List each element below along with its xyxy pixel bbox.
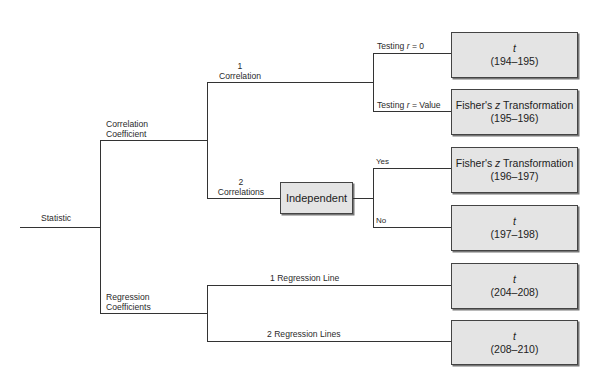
- outcome-box-t-197: t (197–198): [451, 205, 578, 251]
- yes-line: [373, 168, 451, 169]
- regression-vertical: [207, 285, 208, 342]
- regression-coefficients-label: Regression Coefficients: [106, 293, 151, 312]
- one-correlation-line: [207, 82, 374, 83]
- outcome-box-fisher-196: Fisher's z Transformation (196–197): [451, 147, 578, 193]
- testing-zero-line: [373, 53, 451, 54]
- no-label: No: [376, 216, 386, 226]
- outcome-box-t-208: t (208–210): [451, 320, 578, 365]
- correlation-coefficient-label: Correlation Coefficient: [106, 120, 148, 139]
- correlation-vertical: [207, 82, 208, 199]
- one-regression-line: [207, 285, 451, 286]
- outcome-box-t-194: t (194–195): [451, 32, 578, 78]
- root-vertical: [100, 140, 101, 314]
- one-regression-label: 1 Regression Line: [270, 274, 339, 284]
- correlation-coefficient-line: [100, 140, 208, 141]
- two-correlations-label: 2 Correlations: [210, 178, 272, 197]
- independent-vertical: [373, 168, 374, 228]
- root-line: [20, 227, 100, 228]
- two-regression-label: 2 Regression Lines: [267, 330, 341, 340]
- independent-out-line: [353, 198, 374, 199]
- one-correlation-label: 1 Correlation: [212, 62, 268, 81]
- regression-coefficients-line: [100, 313, 208, 314]
- two-regression-line: [207, 341, 451, 342]
- testing-zero-label: Testing r = 0: [377, 42, 424, 52]
- one-correlation-vertical: [373, 53, 374, 112]
- independent-decision-box: Independent: [280, 182, 353, 214]
- testing-value-line: [373, 111, 451, 112]
- yes-label: Yes: [376, 157, 389, 167]
- testing-value-label: Testing r = Value: [377, 101, 441, 111]
- outcome-box-t-204: t (204–208): [451, 263, 578, 309]
- outcome-box-fisher-195: Fisher's z Transformation (195–196): [451, 89, 578, 135]
- two-correlations-line: [207, 198, 281, 199]
- no-line: [373, 227, 451, 228]
- root-label: Statistic: [41, 214, 71, 224]
